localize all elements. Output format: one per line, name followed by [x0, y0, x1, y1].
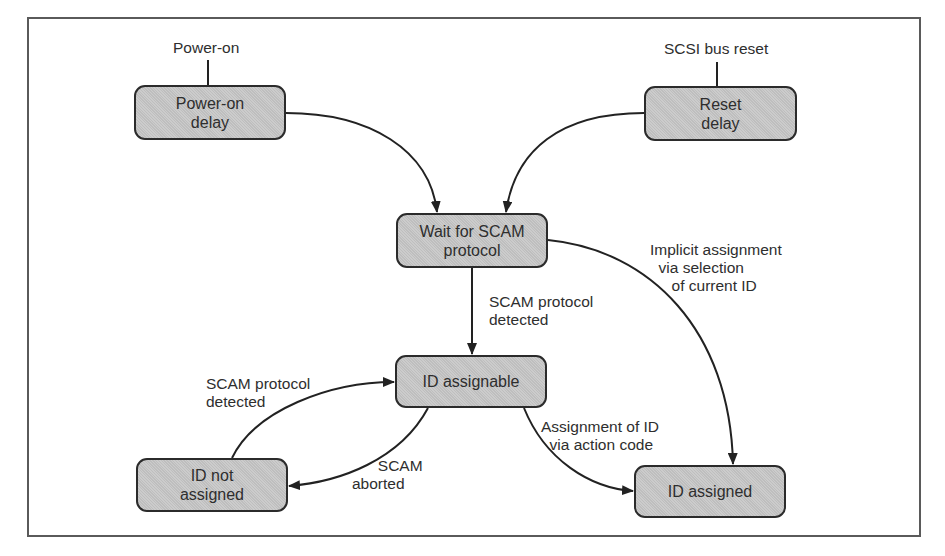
state-label: Wait for SCAM protocol	[419, 222, 524, 260]
state-label: ID not assigned	[180, 466, 244, 504]
edge-label-scam-aborted: SCAM aborted	[352, 457, 423, 493]
state-power-on-delay: Power-on delay	[134, 85, 286, 140]
state-wait-for-scam-protocol: Wait for SCAM protocol	[396, 213, 548, 268]
state-label: ID assigned	[668, 482, 753, 501]
edge-label-scam-protocol-detected-main: SCAM protocol detected	[489, 293, 593, 329]
edge-label-scam-protocol-detected-loop: SCAM protocol detected	[206, 375, 310, 411]
edge-reset-to-wait	[506, 113, 644, 212]
state-id-assignable: ID assignable	[395, 355, 547, 408]
edge-label-implicit-assignment: Implicit assignment via selection of cur…	[650, 241, 782, 295]
state-label: Reset delay	[700, 95, 742, 133]
edge-label-assignment-via-action-code: Assignment of ID via action code	[541, 418, 659, 454]
input-label-scsi-bus-reset: SCSI bus reset	[664, 40, 768, 58]
edge-poweron-to-wait	[286, 113, 437, 212]
state-label: Power-on delay	[176, 94, 244, 132]
input-label-power-on: Power-on	[173, 39, 239, 57]
state-id-not-assigned: ID not assigned	[136, 458, 288, 512]
state-label: ID assignable	[423, 372, 520, 391]
state-id-assigned: ID assigned	[634, 465, 786, 518]
state-reset-delay: Reset delay	[644, 86, 797, 141]
